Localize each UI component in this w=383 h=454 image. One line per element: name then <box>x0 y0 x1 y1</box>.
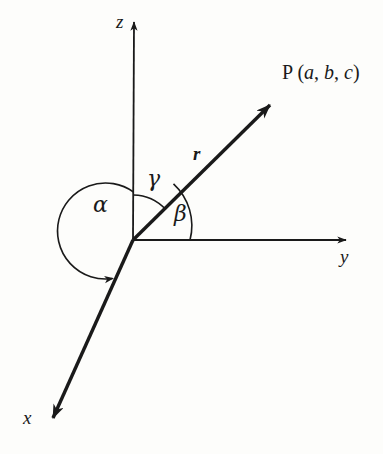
position-vector-label: r <box>193 144 200 163</box>
point-p-suffix: ) <box>353 61 360 83</box>
y-axis-label: y <box>340 247 348 266</box>
point-p-label: P (a, b, c) <box>282 62 360 82</box>
beta-angle-label: β <box>174 203 187 225</box>
gamma-arc <box>134 195 166 209</box>
x-axis-line <box>53 240 133 418</box>
vector-direction-angles-figure: z y x r α β γ P (a, b, c) <box>0 0 383 454</box>
z-axis-label: z <box>116 12 123 31</box>
point-p-prefix: P ( <box>282 61 304 83</box>
gamma-angle-label: γ <box>147 168 160 190</box>
point-p-component-b: b <box>324 61 334 83</box>
point-p-component-a: a <box>304 61 314 83</box>
point-p-component-c: c <box>344 61 353 83</box>
alpha-angle-label: α <box>93 194 108 216</box>
x-axis-label: x <box>23 408 31 427</box>
z-axis-line <box>133 22 134 240</box>
